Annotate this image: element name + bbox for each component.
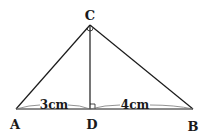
segment-bc — [90, 25, 193, 109]
point-label-d: D — [86, 117, 97, 132]
point-label-c: C — [85, 8, 95, 23]
triangle-diagram: 3cm 4cm C A D B — [0, 0, 211, 136]
point-label-a: A — [9, 117, 21, 132]
length-label-ad: 3cm — [40, 98, 69, 112]
length-label-db: 4cm — [121, 98, 150, 112]
point-label-b: B — [188, 119, 199, 134]
segment-ac — [16, 25, 90, 109]
